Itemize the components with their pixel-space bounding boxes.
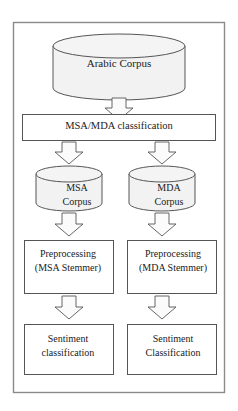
msa-corpus-label: MSA Corpus <box>36 182 118 207</box>
arrow-classification-to-mda <box>148 142 176 164</box>
mda-corpus-label-line2: Corpus <box>128 196 210 207</box>
mda-sentiment-label-line1: Sentiment <box>153 333 194 344</box>
classification-label: MSA/MDA classification <box>22 120 216 132</box>
flowchart-diagram: Arabic Corpus MSA/MDA classification MSA… <box>0 0 238 411</box>
arrow-mda-preprocessing-to-sentiment <box>148 296 176 319</box>
msa-preprocessing-label-line2: (MSA Stemmer) <box>24 262 112 273</box>
arrow-classification-to-msa <box>55 142 83 164</box>
mda-preprocessing-label-line2: (MDA Stemmer) <box>128 262 218 273</box>
msa-corpus-label-line2: Corpus <box>36 196 118 207</box>
mda-preprocessing-label: Preprocessing (MDA Stemmer) <box>128 248 218 273</box>
msa-preprocessing-label: Preprocessing (MSA Stemmer) <box>24 248 112 273</box>
arabic-corpus-label: Arabic Corpus <box>53 57 185 69</box>
msa-corpus-label-line1: MSA <box>66 182 88 193</box>
arrow-msa-preprocessing-to-sentiment <box>55 296 83 319</box>
msa-sentiment-label-line2: classification <box>24 347 112 358</box>
mda-sentiment-label: Sentiment Classification <box>128 333 218 358</box>
mda-corpus-label: MDA Corpus <box>128 182 210 207</box>
mda-preprocessing-label-line1: Preprocessing <box>145 248 201 259</box>
arrow-mda-corpus-to-preprocessing <box>148 213 176 236</box>
msa-preprocessing-label-line1: Preprocessing <box>40 248 96 259</box>
msa-sentiment-label-line1: Sentiment <box>48 333 89 344</box>
mda-corpus-label-line1: MDA <box>157 182 180 193</box>
arrow-msa-corpus-to-preprocessing <box>55 213 83 236</box>
mda-sentiment-label-line2: Classification <box>128 347 218 358</box>
msa-sentiment-label: Sentiment classification <box>24 333 112 358</box>
